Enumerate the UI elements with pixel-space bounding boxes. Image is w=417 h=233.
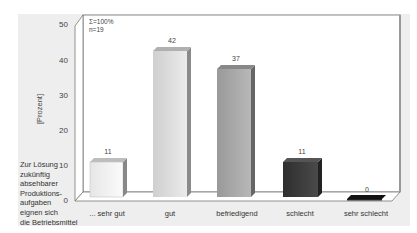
desc-line: zukünftig — [20, 170, 100, 180]
value-label-schlecht: 11 — [287, 148, 317, 155]
category-befriedigend: befriedigend — [207, 209, 267, 218]
desc-line: absehbarer — [20, 179, 100, 189]
y-axis-label: [Prozent] — [35, 94, 44, 124]
bar-schlecht — [283, 158, 322, 197]
y-tick-50: 50 — [52, 20, 68, 29]
value-label-sehr-schlecht: 0 — [352, 186, 382, 193]
y-tick-20: 20 — [52, 126, 68, 135]
category-sehr-gut: ... sehr gut — [82, 209, 132, 218]
desc-line: Produktions- — [20, 189, 100, 199]
bar-befriedigend — [217, 65, 255, 197]
category-schlecht: schlecht — [278, 209, 322, 218]
bar-gut — [153, 47, 191, 197]
y-tick-30: 30 — [52, 91, 68, 100]
n-label: n=19 — [89, 26, 113, 34]
sum-label: Σ=100% — [89, 18, 113, 26]
desc-line: Zur Lösung — [20, 160, 100, 170]
y-tick-40: 40 — [52, 56, 68, 65]
sample-annotation: Σ=100% n=19 — [89, 18, 113, 33]
value-label-befriedigend: 37 — [221, 55, 251, 62]
value-label-sehr-gut: 11 — [93, 148, 123, 155]
value-label-gut: 42 — [157, 37, 187, 44]
desc-line: die Betriebsmittel — [20, 218, 100, 228]
desc-line: aufgaben — [20, 198, 100, 208]
category-gut: gut — [150, 209, 190, 218]
bar-sehr-schlecht — [347, 195, 386, 201]
category-sehr-schlecht: sehr schlecht — [336, 209, 396, 218]
